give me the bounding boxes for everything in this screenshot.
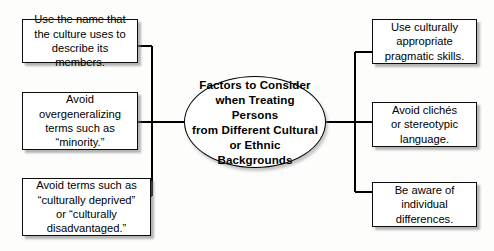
node-right-avoid-cliches: Avoid clichés or stereotypic language. <box>372 102 477 147</box>
node-right-0-label: Use culturally appropriate pragmatic ski… <box>385 20 465 63</box>
node-left-avoid-overgeneralizing: Avoid overgeneralizing terms such as “mi… <box>22 92 138 150</box>
node-right-individual-differences: Be aware of individual differences. <box>372 182 477 227</box>
center-node-factors-to-consider: Factors to Consider when Treating Person… <box>184 76 326 168</box>
node-left-avoid-terms: Avoid terms such as “culturally deprived… <box>22 178 151 236</box>
node-right-1-label: Avoid clichés or stereotypic language. <box>391 103 458 146</box>
node-left-0-label: Use the name that the culture uses to de… <box>28 12 132 69</box>
center-node-label: Factors to Consider when Treating Person… <box>185 77 325 167</box>
diagram-canvas: Use the name that the culture uses to de… <box>0 0 494 251</box>
node-left-2-label: Avoid terms such as “culturally deprived… <box>36 178 137 235</box>
node-left-use-name: Use the name that the culture uses to de… <box>22 19 138 63</box>
node-right-2-label: Be aware of individual differences. <box>395 183 455 226</box>
node-left-1-label: Avoid overgeneralizing terms such as “mi… <box>39 92 121 149</box>
node-right-pragmatic-skills: Use culturally appropriate pragmatic ski… <box>372 19 477 64</box>
